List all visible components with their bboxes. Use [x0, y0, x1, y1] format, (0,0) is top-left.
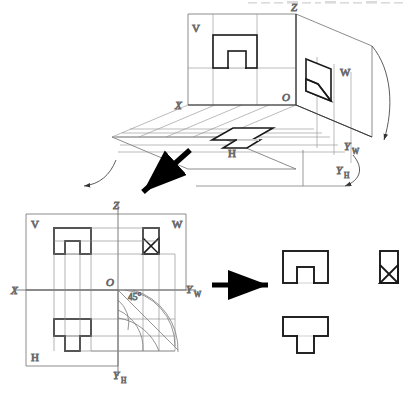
- unfolded-label-yh: Y: [113, 369, 121, 381]
- pictorial-label-v: V: [192, 22, 200, 34]
- pictorial-label-o: O: [282, 91, 290, 103]
- final-views-group: [283, 251, 398, 353]
- pictorial-label-x: X: [174, 99, 183, 111]
- technical-drawing-svg: V W H Z X O Y W Y H: [0, 0, 415, 394]
- figure-canvas: V W H Z X O Y W Y H: [0, 0, 415, 394]
- unfolded-label-yw-sub: W: [194, 290, 202, 299]
- pictorial-label-w: W: [340, 66, 351, 78]
- unfolded-label-x: X: [10, 284, 19, 296]
- unfolded-label-yw: Y: [186, 283, 194, 295]
- unfolded-label-45: 45°: [128, 292, 142, 302]
- unfolded-axes: [14, 204, 196, 376]
- pictorial-label-yw-sub: W: [352, 147, 360, 156]
- h-plane: [112, 137, 296, 169]
- unfold-arc-tails: [196, 150, 350, 186]
- unfolded-label-h: H: [31, 351, 39, 363]
- pictorial-label-h: H: [228, 147, 236, 159]
- header-text-strip: [248, 1, 403, 4]
- unfolded-label-o: O: [106, 276, 114, 288]
- final-front-view: [283, 251, 328, 283]
- unfolded-label-v: V: [31, 218, 39, 230]
- unfolded-top-view: [54, 319, 91, 351]
- unfolded-group: V W H Z X O 45° Y W Y H: [10, 199, 202, 385]
- pictorial-label-yh-sub: H: [344, 171, 350, 180]
- pictorial-front-projection: [213, 35, 257, 68]
- unfolded-label-w: W: [172, 218, 183, 230]
- final-top-view: [283, 317, 328, 353]
- header-glyph-row: [248, 1, 403, 4]
- unfolded-label-yh-sub: H: [121, 376, 127, 385]
- unfold-arrow: [143, 150, 190, 192]
- pictorial-group: V W H Z X O Y W Y H: [84, 1, 390, 186]
- unfolded-label-z: Z: [113, 199, 120, 211]
- pictorial-label-yh: Y: [336, 164, 344, 176]
- pictorial-label-z: Z: [291, 1, 298, 13]
- miter-and-arcs: [118, 290, 178, 352]
